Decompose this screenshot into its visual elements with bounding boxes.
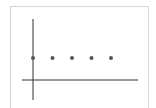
data-point (109, 56, 113, 60)
data-point (31, 56, 35, 60)
data-point (90, 56, 94, 60)
data-point (51, 56, 55, 60)
data-point (70, 56, 74, 60)
scatter-plot (0, 0, 156, 108)
data-points (31, 56, 113, 60)
